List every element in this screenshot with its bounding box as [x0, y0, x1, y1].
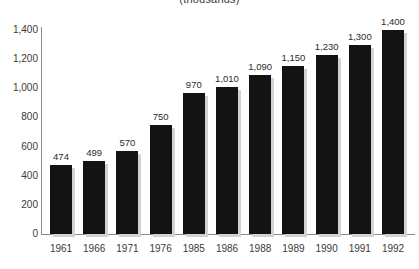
bar-value-label-1966: 499: [86, 148, 102, 158]
bar-value-label-1992: 1,400: [381, 17, 405, 27]
x-axis-label-1990: 1990: [315, 243, 337, 254]
y-axis-tick-0: 0: [2, 229, 38, 239]
bar-1990[interactable]: [316, 55, 338, 234]
bar-value-label-1990: 1,230: [315, 42, 339, 52]
x-axis-label-1989: 1989: [282, 243, 304, 254]
y-axis-tick-1200: 1,200: [2, 54, 38, 64]
bar-chart: (thousands) 02004006008001,0001,2001,400…: [0, 0, 419, 269]
bar-1992[interactable]: [382, 30, 404, 234]
y-axis-tick-600: 600: [2, 142, 38, 152]
x-axis-label-1991: 1991: [349, 243, 371, 254]
x-axis-label-1988: 1988: [249, 243, 271, 254]
y-axis-tick-800: 800: [2, 112, 38, 122]
bar-1976[interactable]: [150, 125, 172, 234]
x-axis-label-1992: 1992: [382, 243, 404, 254]
x-axis-label-1976: 1976: [149, 243, 171, 254]
bar-1961[interactable]: [50, 165, 72, 234]
bar-value-label-1991: 1,300: [348, 32, 372, 42]
bar-1989[interactable]: [282, 66, 304, 234]
x-axis-label-1985: 1985: [183, 243, 205, 254]
bar-value-label-1961: 474: [53, 152, 69, 162]
x-axis-label-1961: 1961: [50, 243, 72, 254]
bar-value-label-1971: 570: [119, 138, 135, 148]
y-axis-tick-200: 200: [2, 200, 38, 210]
bar-1985[interactable]: [183, 93, 205, 234]
bar-value-label-1988: 1,090: [248, 62, 272, 72]
bar-value-label-1989: 1,150: [282, 53, 306, 63]
x-axis-label-1966: 1966: [83, 243, 105, 254]
bar-1966[interactable]: [83, 161, 105, 234]
bar-value-label-1976: 750: [153, 112, 169, 122]
y-axis-tick-labels: 02004006008001,0001,2001,400: [0, 0, 38, 269]
bar-value-label-1985: 970: [186, 80, 202, 90]
bar-1991[interactable]: [349, 45, 371, 234]
x-axis-label-1986: 1986: [216, 243, 238, 254]
chart-title: (thousands): [0, 0, 419, 5]
bar-value-label-1986: 1,010: [215, 74, 239, 84]
y-axis-tick-1400: 1,400: [2, 25, 38, 35]
bar-1971[interactable]: [116, 151, 138, 234]
y-axis-tick-1000: 1,000: [2, 83, 38, 93]
x-axis-label-1971: 1971: [116, 243, 138, 254]
y-axis-tick-400: 400: [2, 171, 38, 181]
bar-1988[interactable]: [249, 75, 271, 234]
bar-1986[interactable]: [216, 87, 238, 234]
